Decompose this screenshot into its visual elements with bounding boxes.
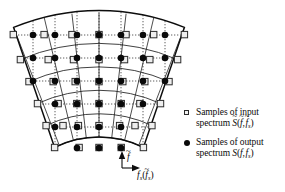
legend-output-line1: Samples of output: [196, 137, 285, 148]
tilde-accent-icon: ~: [232, 112, 237, 121]
filled-circle-marker: [52, 32, 59, 39]
tilde-accent-icon: ~: [126, 147, 131, 156]
filled-circle-marker: [140, 78, 147, 85]
polar-cartesian-sampling-diagram: [0, 0, 285, 192]
open-square-marker-legend-icon: [184, 110, 189, 115]
tilde-accent-icon: ~: [245, 112, 250, 121]
open-square-marker: [34, 100, 40, 106]
legend-output-line2: spectrum S(f, fs): [196, 148, 285, 161]
open-square-marker: [151, 31, 157, 37]
filled-circle-marker: [96, 78, 103, 85]
legend-output-prefix: spectrum: [196, 148, 232, 158]
filled-circle-marker: [74, 55, 81, 62]
open-square-marker: [181, 31, 187, 37]
filled-circle-marker: [140, 32, 147, 39]
filled-circle-marker: [52, 101, 59, 108]
filled-circle-marker: [118, 55, 125, 62]
filled-circle-marker: [30, 78, 37, 85]
open-square-marker: [17, 56, 23, 62]
filled-circle-marker: [74, 78, 81, 85]
open-square-marker: [174, 56, 180, 62]
open-square-marker: [51, 144, 57, 150]
filled-circle-marker: [52, 124, 59, 131]
filled-circle-marker: [96, 124, 103, 131]
filled-circle-marker: [52, 55, 59, 62]
filled-circle-marker: [30, 32, 37, 39]
open-square-marker: [132, 122, 138, 128]
open-square-marker: [60, 122, 66, 128]
radial-line: [14, 27, 99, 192]
filled-circle-marker: [96, 55, 103, 62]
open-square-marker: [41, 31, 47, 37]
open-square-marker: [147, 56, 153, 62]
filled-circle-marker: [162, 32, 169, 39]
open-square-marker: [157, 100, 163, 106]
tilde-accent-icon: ~: [144, 165, 149, 174]
filled-circle-marker: [74, 101, 81, 108]
tilde-accent-icon: ~: [239, 112, 244, 121]
open-square-marker: [10, 31, 16, 37]
legend-item-input-spectrum: Samples of input spectrum ~S(~f, ~fs): [183, 107, 285, 131]
axis-label-vertical: ~f: [127, 152, 130, 162]
filled-circle-marker: [52, 78, 59, 85]
filled-circle-marker: [118, 124, 125, 131]
open-square-marker: [140, 144, 146, 150]
legend-input-line2: spectrum ~S(~f, ~fs): [196, 118, 285, 131]
legend-item-output-spectrum: Samples of output spectrum S(f, fs): [183, 137, 285, 161]
cartesian-dotted-grid: [0, 0, 285, 192]
filled-circle-marker: [74, 124, 81, 131]
filled-circle-marker: [96, 32, 103, 39]
open-square-marker: [45, 56, 51, 62]
open-square-marker: [149, 122, 155, 128]
filled-circle-marker: [118, 32, 125, 39]
figure-container: ~f fs(~fs) Samples of input spectrum ~S(…: [0, 0, 285, 192]
axis-label-horizontal: fs(~fs): [137, 170, 154, 181]
filled-circle-marker: [118, 101, 125, 108]
radial-line: [99, 27, 184, 192]
filled-circle-marker: [74, 32, 81, 39]
paren-close: ): [251, 148, 254, 158]
legend-input-prefix: spectrum: [196, 118, 232, 128]
filled-circle-marker: [96, 145, 103, 152]
paren-close: ): [151, 170, 154, 180]
filled-circle-marker: [140, 55, 147, 62]
axis-vertical-arrowhead: [119, 151, 125, 159]
filled-circle-marker: [96, 101, 103, 108]
filled-circle-marker: [162, 78, 169, 85]
filled-circle-marker: [118, 145, 125, 152]
filled-circle-marker: [30, 55, 37, 62]
filled-circle-marker: [74, 145, 81, 152]
open-square-marker: [43, 122, 49, 128]
filled-circle-marker: [118, 78, 125, 85]
filled-circle-marker: [140, 101, 147, 108]
paren-close: ): [251, 118, 254, 128]
filled-circle-marker: [162, 55, 169, 62]
filled-circle-marker-legend-icon: [184, 140, 190, 146]
